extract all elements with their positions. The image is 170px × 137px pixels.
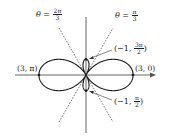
point-3-pi bbox=[38, 74, 41, 77]
label-theta-2pi-3: θ = 2π3 bbox=[36, 8, 62, 21]
point-neg1-pi-2 bbox=[85, 89, 88, 92]
fraction: π3 bbox=[132, 9, 138, 22]
denominator: 2 bbox=[134, 49, 144, 55]
denominator: 3 bbox=[53, 15, 63, 21]
denominator: 3 bbox=[132, 16, 138, 22]
label-prefix: θ = bbox=[36, 10, 53, 19]
leader-bottom-arrow-icon bbox=[89, 91, 94, 94]
label-prefix: θ = bbox=[115, 11, 132, 20]
label-open: (−1, bbox=[114, 44, 134, 53]
label-theta-pi-3: θ = π3 bbox=[115, 9, 138, 22]
label-close: ) bbox=[144, 44, 147, 53]
label-neg1-3pi-2: (−1, 3π2) bbox=[114, 42, 147, 55]
label-close: ) bbox=[140, 97, 143, 106]
label-3-0: (3, 0) bbox=[135, 65, 155, 73]
leader-bottom bbox=[91, 92, 112, 100]
fraction: 3π2 bbox=[134, 42, 144, 55]
fraction: 2π3 bbox=[53, 8, 63, 21]
label-3-pi: (3, π) bbox=[17, 65, 37, 73]
label-open: (−1, bbox=[114, 97, 134, 106]
leader-top bbox=[91, 50, 112, 58]
point-3-0 bbox=[132, 74, 135, 77]
label-neg1-pi-2: (−1, π2) bbox=[114, 95, 143, 108]
point-neg1-3pi-2 bbox=[85, 58, 88, 61]
axis-arrow-icon bbox=[150, 73, 156, 78]
leader-top-arrow-icon bbox=[89, 56, 94, 59]
